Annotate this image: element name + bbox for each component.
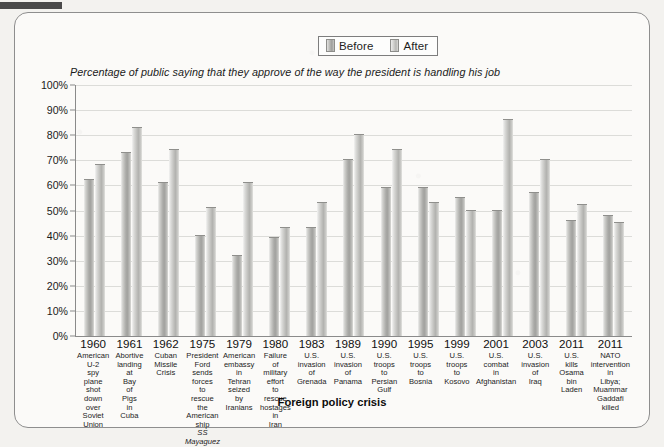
y-axis-tick-mark [70,85,75,86]
x-axis-category: 2003U.S. invasion of Iraq [517,338,553,447]
x-axis-category-year: 1983 [295,338,329,350]
x-axis-category-description: U.S. troops to Bosnia [403,352,437,386]
x-axis-category-description: American U-2 spy plane shot down over So… [76,352,110,429]
chart-legend: Before After [318,36,438,56]
bar-group [298,85,335,336]
bar-after [503,119,513,336]
bar-before [492,210,502,337]
bar-group [484,85,521,336]
y-axis-tick-mark [70,160,75,161]
bar-group [150,85,187,336]
x-axis-category: 1980Failure of military effort to rescue… [257,338,293,447]
x-axis-category: 1962Cuban Missile Crisis [148,338,184,447]
legend-swatch-before-icon [326,39,335,52]
x-axis-category: 1983U.S. invasion of Grenada [294,338,330,447]
y-axis-tick-label: 20% [47,280,68,292]
bar-before [232,255,242,336]
bar-before [566,220,576,336]
bar-group [447,85,484,336]
y-axis-tick-label: 40% [47,230,68,242]
y-axis-tick-label: 70% [47,154,68,166]
y-axis-tick-label: 10% [47,305,68,317]
y-axis-tick-mark [70,210,75,211]
bar-after [466,210,476,337]
page-corner-mark [0,2,62,9]
bar-group [335,85,372,336]
legend-swatch-after-icon [390,39,399,52]
bar-after [280,227,290,336]
x-axis-category: 1989U.S. invasion of Panama [330,338,366,447]
x-axis-category-year: 1962 [149,338,183,350]
x-axis-category-year: 1960 [76,338,110,350]
y-axis-tick-mark [70,235,75,236]
x-axis-category-year: 1999 [440,338,474,350]
bar-before [343,159,353,336]
x-axis-category-year: 1989 [331,338,365,350]
y-axis-tick-mark [70,185,75,186]
x-axis-category: 1960American U-2 spy plane shot down ove… [75,338,111,447]
x-axis-category: 2011NATO intervention in Libya; Muammar … [590,338,631,447]
x-axis-category-labels: 1960American U-2 spy plane shot down ove… [75,338,631,447]
chart-subtitle: Percentage of public saying that they ap… [70,66,500,78]
x-axis-category-description: U.S. combat in Afghanistan [476,352,516,386]
x-axis-category-description: Cuban Missile Crisis [149,352,183,378]
bar-group [224,85,261,336]
x-axis-category-year: 1980 [258,338,292,350]
y-axis-tick-label: 30% [47,255,68,267]
x-axis-category-year: 1975 [185,338,220,350]
x-axis-category: 1961Abortive landing at Bay of Pigs in C… [111,338,147,447]
bar-after [206,207,216,336]
bar-group [595,85,632,336]
x-axis-category-description: U.S. troops to Persian Gulf [367,352,401,395]
bar-before [306,227,316,336]
x-axis-category-description: U.S. invasion of Panama [331,352,365,386]
figure-frame: Before After Percentage of public saying… [14,12,650,428]
x-axis-category: 1999U.S. troops to Kosovo [439,338,475,447]
bar-series-container [76,85,632,336]
bar-before [418,187,428,336]
bar-after [354,134,364,336]
x-axis-category-description: U.S. troops to Kosovo [440,352,474,386]
x-axis-category-description: Failure of military effort to rescue hos… [258,352,292,429]
y-axis-tick-label: 100% [41,79,68,91]
x-axis-category-year: 1961 [112,338,146,350]
y-axis-ticks: 0%10%20%30%40%50%60%70%80%90%100% [15,85,75,337]
bar-before [529,192,539,336]
bar-after [540,159,550,336]
bar-before [603,215,613,336]
x-axis-category-year: 2011 [554,338,588,350]
legend-label-before: Before [339,40,373,52]
bar-after [614,222,624,336]
y-axis-tick-mark [70,260,75,261]
bar-group [558,85,595,336]
bar-after [317,202,327,336]
plot-area [75,85,632,337]
y-axis-tick-label: 60% [47,179,68,191]
y-axis-tick-mark [70,285,75,286]
x-axis-category: 1975President Ford sends forces to rescu… [184,338,221,447]
x-axis-category-year: 1990 [367,338,401,350]
bar-after [577,204,587,336]
y-axis-tick-label: 90% [47,104,68,116]
x-axis-category: 2011U.S. kills Osama bin Laden [553,338,589,447]
x-axis-category: 1995U.S. troops to Bosnia [402,338,438,447]
legend-label-after: After [403,40,428,52]
bar-after [169,149,179,336]
y-axis-tick-label: 80% [47,129,68,141]
bar-after [95,164,105,336]
x-axis-title: Foreign policy crisis [15,396,649,408]
bar-before [455,197,465,336]
bar-group [76,85,113,336]
x-axis-category-year: 2011 [591,338,630,350]
bar-group [373,85,410,336]
x-axis-category-description: Abortive landing at Bay of Pigs in Cuba [112,352,146,421]
x-axis-category: 2001U.S. combat in Afghanistan [475,338,517,447]
y-axis-tick-label: 0% [53,330,68,342]
bar-before [195,235,205,336]
bar-group [410,85,447,336]
bar-after [429,202,439,336]
legend-item-before: Before [326,39,373,52]
x-axis-category-year: 2001 [476,338,516,350]
bar-group [521,85,558,336]
bar-after [392,149,402,336]
